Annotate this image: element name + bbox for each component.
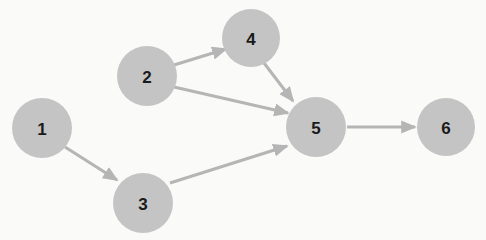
node-4[interactable]: 4	[222, 9, 280, 67]
node-2[interactable]: 2	[117, 46, 177, 106]
node-3-label: 3	[138, 195, 147, 214]
graph-diagram: 123456	[0, 0, 486, 240]
node-6-label: 6	[441, 119, 450, 138]
node-4-label: 4	[246, 30, 256, 49]
node-5[interactable]: 5	[286, 97, 346, 157]
node-1-label: 1	[37, 120, 46, 139]
node-3[interactable]: 3	[113, 173, 173, 233]
node-1[interactable]: 1	[12, 98, 72, 158]
node-5-label: 5	[311, 119, 320, 138]
diagram-canvas: 123456	[0, 0, 486, 240]
node-6[interactable]: 6	[417, 98, 475, 156]
node-2-label: 2	[142, 68, 151, 87]
